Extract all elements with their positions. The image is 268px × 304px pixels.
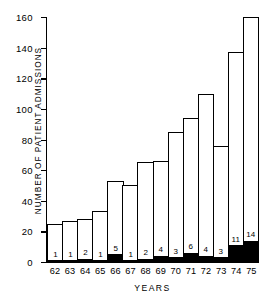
bar-fill [63,260,77,262]
bar-fill [78,259,92,262]
y-tick: 0 [41,262,46,263]
x-tick-label: 68 [138,266,153,276]
bar: 14 [243,17,259,262]
y-tick-label: 60 [22,165,33,176]
x-tick-label: 72 [198,266,213,276]
x-tick-label: 71 [183,266,198,276]
bar-value-label: 1 [93,251,107,259]
bar-fill [138,259,152,262]
bar: 1 [92,211,108,262]
bar-value-label: 2 [138,249,152,257]
x-tick-label: 74 [229,266,244,276]
y-tick-label: 20 [22,226,33,237]
bar: 11 [228,52,244,262]
y-tick-label: 140 [16,42,33,53]
x-tick-label: 69 [153,266,168,276]
bar: 1 [62,221,78,262]
x-tick-label: 63 [63,266,78,276]
x-tick-label: 73 [214,266,229,276]
y-axis-title: NUMBER OF PATIENT ADMISSIONS [34,36,43,226]
y-tick: 140 [41,48,46,49]
y-tick-label: 120 [16,73,33,84]
bar: 1 [122,185,138,262]
x-axis-title: YEARS [46,283,259,293]
y-tick: 120 [41,78,46,79]
x-tick-label: 65 [93,266,108,276]
bar: 4 [198,94,214,262]
bar-fill [199,256,213,262]
bar-value-label: 1 [48,251,62,259]
bar-value-label: 14 [244,231,258,239]
y-tick: 160 [41,17,46,18]
bar-value-label: 2 [78,249,92,257]
bar-fill [244,241,258,262]
y-tick: 80 [41,140,46,141]
y-tick: 60 [41,170,46,171]
bar-fill [169,257,183,262]
bar-fill [184,253,198,262]
bar-fill [154,256,168,262]
y-tick-label: 0 [27,257,33,268]
bar-value-label: 4 [199,246,213,254]
x-axis-ticks: 62 63 64 65 66 67 68 69 70 71 72 73 74 7… [47,266,259,276]
bar-value-label: 5 [108,245,122,253]
bar: 5 [107,181,123,262]
bar: 4 [153,161,169,262]
y-tick: 40 [41,201,46,202]
bar-value-label: 1 [123,251,137,259]
bar-value-label: 1 [63,251,77,259]
bar-value-label: 11 [229,236,243,244]
bar: 2 [77,219,93,262]
x-tick-label: 70 [168,266,183,276]
x-tick-label: 66 [108,266,123,276]
y-tick-label: 100 [16,103,33,114]
x-tick-label: 64 [78,266,93,276]
bar-group: 1 1 2 1 5 1 2 [47,17,259,262]
bar-fill [123,260,137,262]
bar-value-label: 3 [214,248,228,256]
bar: 3 [213,146,229,262]
bar-value-label: 6 [184,243,198,251]
bar: 6 [183,118,199,262]
x-tick-label: 75 [244,266,259,276]
y-tick-label: 160 [16,12,33,23]
y-tick-label: 80 [22,134,33,145]
bar-value-label: 4 [154,246,168,254]
x-tick-label: 67 [123,266,138,276]
x-tick-label: 62 [47,266,62,276]
bar-value-label: 3 [169,248,183,256]
bar-fill [229,245,243,262]
y-tick: 20 [41,231,46,232]
bar-fill [214,257,228,262]
bar: 3 [168,132,184,262]
bar-fill [93,260,107,262]
bar: 1 [47,224,63,262]
y-tick: 100 [41,109,46,110]
bar: 2 [137,162,153,262]
plot-area: 160 140 120 100 80 60 40 20 [46,17,259,262]
bar-fill [48,260,62,262]
y-tick-label: 40 [22,195,33,206]
bar-fill [108,254,122,262]
bar-chart: NUMBER OF PATIENT ADMISSIONS 160 140 120… [0,0,268,304]
